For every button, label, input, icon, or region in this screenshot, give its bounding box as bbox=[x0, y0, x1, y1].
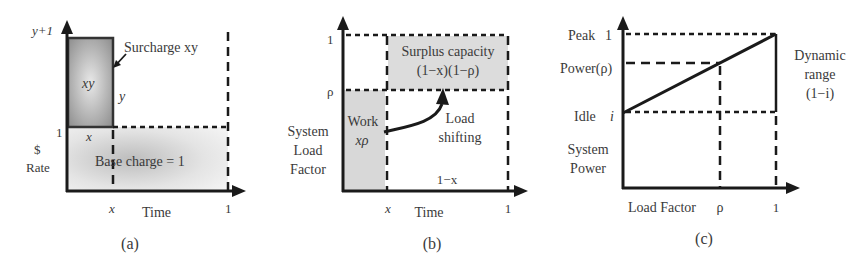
y-axis-arrow-icon bbox=[337, 16, 349, 30]
panel-c: Peak 1 Power(ρ) Idle i System Power Dyna… bbox=[560, 16, 846, 248]
peak-label: Peak bbox=[568, 28, 595, 43]
x-axis-arrow-icon bbox=[232, 185, 246, 197]
surcharge-height-label: y bbox=[117, 89, 126, 104]
caption-b: (b) bbox=[423, 235, 442, 253]
dynamic-range-label-1: Dynamic bbox=[794, 48, 845, 63]
y-axis-label-load: Load bbox=[294, 143, 323, 158]
surcharge-width-label: x bbox=[85, 129, 92, 144]
dynamic-range-formula: (1−i) bbox=[806, 86, 834, 102]
caption-c: (c) bbox=[695, 230, 713, 248]
work-label: Work bbox=[348, 114, 379, 129]
y-axis-arrow-icon bbox=[617, 16, 629, 30]
surcharge-label: Surcharge xy bbox=[124, 40, 198, 55]
surplus-label: Surplus capacity bbox=[402, 44, 495, 59]
power-curve bbox=[623, 34, 776, 113]
y-axis-label-system: System bbox=[567, 142, 608, 157]
x-axis-arrow-icon bbox=[514, 185, 528, 197]
idle-value: i bbox=[610, 109, 614, 124]
y-axis-label-rate: Rate bbox=[26, 160, 50, 175]
y-axis-arrow-icon bbox=[61, 20, 73, 34]
idle-label: Idle bbox=[574, 109, 596, 124]
base-charge-label: Base charge = 1 bbox=[95, 154, 185, 169]
peak-value: 1 bbox=[605, 28, 612, 43]
y-axis-label-system: System bbox=[287, 124, 328, 139]
panel-a: y+1 1 $ Rate Surcharge xy xy y x Base ch… bbox=[26, 20, 246, 253]
x-tick-one: 1 bbox=[505, 201, 512, 216]
x-tick-x: x bbox=[384, 201, 391, 216]
y-axis-label-dollar: $ bbox=[34, 142, 41, 157]
y-top-label: y+1 bbox=[30, 23, 53, 38]
y-one-label: 1 bbox=[56, 125, 63, 140]
y-axis-label-power: Power bbox=[570, 161, 606, 176]
x-axis-label: Time bbox=[142, 205, 171, 220]
panel-b: 1 ρ System Load Factor Surplus capacity … bbox=[287, 16, 528, 253]
x-tick-x: x bbox=[108, 201, 115, 216]
x-axis-arrow-icon bbox=[786, 182, 800, 194]
surplus-formula: (1−x)(1−ρ) bbox=[417, 63, 480, 79]
figure: y+1 1 $ Rate Surcharge xy xy y x Base ch… bbox=[0, 0, 862, 265]
width-label: 1−x bbox=[437, 172, 458, 187]
x-axis-label: Time bbox=[414, 205, 443, 220]
load-shift-curve bbox=[384, 104, 442, 132]
x-tick-one: 1 bbox=[773, 200, 780, 215]
x-tick-rho: ρ bbox=[717, 200, 724, 215]
x-tick-one: 1 bbox=[225, 201, 232, 216]
dynamic-range-label-2: range bbox=[804, 67, 835, 82]
load-shift-label-1: Load bbox=[446, 111, 475, 126]
surcharge-area-label: xy bbox=[81, 76, 95, 91]
x-axis-label: Load Factor bbox=[628, 200, 696, 215]
work-formula: xρ bbox=[355, 133, 369, 148]
load-shift-label-2: shifting bbox=[439, 130, 482, 145]
y-axis-label-factor: Factor bbox=[290, 162, 326, 177]
y-tick-one: 1 bbox=[327, 32, 334, 47]
y-tick-rho: ρ bbox=[327, 84, 334, 99]
caption-a: (a) bbox=[121, 235, 139, 253]
power-rho-label: Power(ρ) bbox=[560, 61, 612, 77]
